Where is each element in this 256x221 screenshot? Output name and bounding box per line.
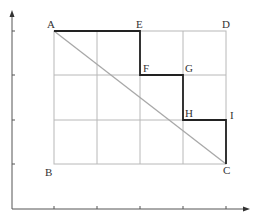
x-axis-arrow-icon [243,207,250,212]
label-A: A [47,18,55,30]
label-C: C [223,164,230,176]
label-G: G [185,62,193,74]
label-I: I [230,109,234,121]
label-D: D [222,18,230,30]
label-H: H [185,107,193,119]
label-B: B [45,166,52,178]
y-axis-arrow-icon [10,10,15,17]
label-F: F [143,62,149,74]
axes [10,10,251,212]
diagram-canvas: A B C D E F G H I [0,0,256,221]
label-E: E [136,18,143,30]
